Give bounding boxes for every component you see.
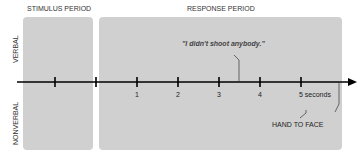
verbal-event-quote: "I didn't shoot anybody." [182,40,265,47]
verbal-event-pointer [234,55,239,82]
timeline-tick-label: 1 [135,91,139,98]
timeline-tick-label: 3 [217,91,221,98]
nonverbal-event-label: HAND TO FACE [272,121,323,128]
timeline-tick-label: 4 [258,91,262,98]
timeline-arrowhead [348,78,357,86]
timeline-tick-label: 5 seconds [299,91,331,98]
nonverbal-event-pointer-upper [335,82,339,112]
timeline-tick-label: 2 [176,91,180,98]
timeline-svg [0,0,364,159]
nonverbal-event-pointer [300,110,306,118]
